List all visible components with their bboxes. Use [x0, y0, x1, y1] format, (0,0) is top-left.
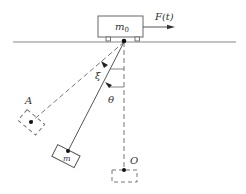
pendulum-rod: [68, 42, 124, 151]
point-a-marker: [29, 120, 33, 124]
angle-theta: θ: [105, 82, 124, 105]
pendulum-cart-diagram: m0 F(t) ξ θ A m O: [0, 0, 246, 194]
point-o-label: O: [130, 155, 138, 166]
reference-dashed-line: [31, 42, 124, 122]
pendulum-mass-label: m: [63, 154, 71, 163]
wheel-left: [106, 37, 111, 41]
wheel-right: [135, 37, 140, 41]
xi-label: ξ: [95, 70, 101, 81]
cart: m0: [98, 16, 143, 41]
pivot-point: [122, 39, 127, 44]
mass-attachment-point: [66, 149, 70, 153]
point-a-label: A: [24, 95, 32, 106]
force-arrow: F(t): [143, 11, 175, 29]
theta-label: θ: [108, 94, 114, 105]
force-label: F(t): [154, 11, 174, 22]
point-o-marker: [122, 168, 126, 172]
